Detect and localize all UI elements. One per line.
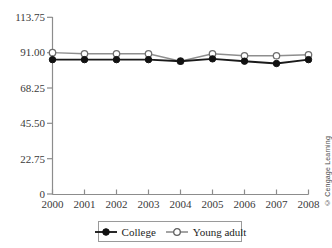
x-tick-label: 2000 xyxy=(42,198,65,210)
data-point-college xyxy=(241,58,247,64)
data-point-college xyxy=(113,56,119,62)
data-point-college xyxy=(305,56,311,62)
open-circle-marker-icon xyxy=(165,227,189,237)
x-tick-label: 2008 xyxy=(298,198,321,210)
filled-circle-marker-icon xyxy=(94,227,118,237)
series-college xyxy=(49,56,311,67)
y-axis xyxy=(47,17,53,195)
data-point-college xyxy=(145,56,151,62)
x-tick-label: 2006 xyxy=(234,198,257,210)
data-point-college xyxy=(273,60,279,66)
x-tick-label: 2007 xyxy=(266,198,289,210)
data-point-young-adult xyxy=(273,53,279,59)
copyright-credit: © Cengage Learning xyxy=(324,136,331,206)
y-tick-label: 22.75 xyxy=(20,153,45,165)
y-tick-labels: 113.75 91.00 68.25 45.50 22.75 0 xyxy=(15,11,45,200)
data-point-college xyxy=(209,56,215,62)
data-point-college xyxy=(81,56,87,62)
data-point-college xyxy=(49,56,55,62)
x-tick-labels: 2000 2001 2002 2003 2004 2005 2006 2007 … xyxy=(42,198,321,210)
chart-legend: College Young adult xyxy=(98,221,242,242)
legend-label-college: College xyxy=(122,226,156,238)
line-chart-figure: 113.75 91.00 68.25 45.50 22.75 0 2000 20… xyxy=(0,0,332,248)
x-tick-label: 2002 xyxy=(106,198,128,210)
x-tick-label: 2005 xyxy=(202,198,225,210)
y-tick-label: 91.00 xyxy=(20,46,45,58)
legend-label-young-adult: Young adult xyxy=(193,226,247,238)
legend-entry-college: College xyxy=(94,226,156,238)
y-tick-label: 68.25 xyxy=(20,82,45,94)
legend-entry-young-adult: Young adult xyxy=(165,226,247,238)
x-tick-label: 2004 xyxy=(170,198,193,210)
x-tick-label: 2001 xyxy=(74,198,96,210)
x-tick-label: 2003 xyxy=(138,198,161,210)
y-tick-label: 113.75 xyxy=(15,11,45,23)
x-axis xyxy=(53,190,309,195)
data-point-young-adult xyxy=(49,49,55,55)
chart-plot-area: 113.75 91.00 68.25 45.50 22.75 0 2000 20… xyxy=(0,0,332,248)
data-point-college xyxy=(177,58,183,64)
y-tick-label: 45.50 xyxy=(20,117,45,129)
